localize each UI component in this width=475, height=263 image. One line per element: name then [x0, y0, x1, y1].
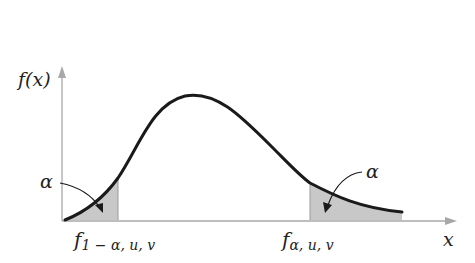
alpha-left-label: α	[40, 170, 53, 192]
y-axis-label: f(x)	[18, 68, 51, 90]
alpha-right-label: α	[366, 160, 379, 182]
lower-critical-value-label: f1 − α, u, v	[74, 228, 155, 253]
lower-critical-subscript: 1 − α, u, v	[81, 237, 155, 253]
upper-critical-value-label: fα, u, v	[282, 228, 334, 253]
x-axis-label: x	[443, 228, 454, 250]
f-distribution-figure	[0, 0, 475, 263]
y-axis-arrow-icon	[58, 66, 66, 78]
lower-tail-shade	[65, 178, 118, 220]
x-axis-arrow-icon	[445, 217, 457, 225]
upper-critical-subscript: α, u, v	[289, 237, 333, 253]
